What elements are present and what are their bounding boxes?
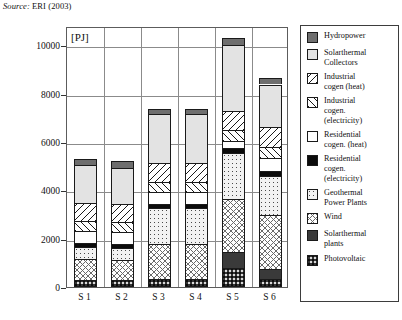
legend-label: Residential cogen. (heat)	[324, 130, 367, 149]
legend-swatch-hydro-icon	[307, 32, 318, 43]
legend-label: Geothermal Power Plants	[324, 188, 367, 207]
bar-segment-indelec	[111, 222, 134, 232]
legend-swatch-indelec-icon	[307, 97, 318, 108]
bar-segment-resheat	[148, 192, 171, 204]
source-text: ERI (2003)	[30, 1, 72, 11]
bar-segment-indelec	[259, 147, 282, 159]
gridline-8000	[67, 96, 287, 97]
bar-segment-hydro	[148, 109, 171, 114]
vertical-gridline	[215, 28, 216, 287]
legend-item-solplant[interactable]: Solarthermal plants	[307, 229, 394, 248]
chart-plot-area: [PJ]	[66, 27, 288, 288]
legend-item-resheat[interactable]: Residential cogen. (heat)	[307, 130, 394, 149]
bar-segment-indheat	[185, 163, 208, 182]
bar-segment-resheat	[74, 231, 97, 243]
legend-label: Industrial cogen (heat)	[324, 72, 365, 91]
bar-segment-indheat	[74, 203, 97, 221]
bar-segment-solcoll	[222, 45, 245, 110]
bar-segment-hydro	[259, 78, 282, 85]
legend-swatch-solplant-icon	[307, 230, 318, 241]
source-prefix: Source:	[3, 1, 30, 11]
bar-segment-indheat	[148, 163, 171, 182]
y-tick-mark	[61, 288, 66, 289]
bar-segment-geo	[74, 247, 97, 259]
bar-segment-hydro	[185, 109, 208, 114]
legend-item-pv[interactable]: Photovoltaic	[307, 254, 394, 266]
x-tick-label-s2: S 2	[103, 292, 140, 318]
legend-item-wind[interactable]: Wind	[307, 212, 394, 224]
legend-label: Wind	[324, 212, 342, 222]
bar-segment-solcoll	[185, 114, 208, 163]
x-tick-label-s3: S 3	[140, 292, 177, 318]
bar-segment-hydro	[111, 161, 134, 167]
gridline-10000	[67, 47, 287, 48]
bar-segment-geo	[259, 176, 282, 215]
legend-label: Hydropower	[324, 31, 365, 41]
legend-label: Solarthermal plants	[324, 229, 366, 248]
bar-segment-resheat	[111, 232, 134, 244]
bar-segment-resheat	[222, 141, 245, 148]
legend-swatch-resheat-icon	[307, 131, 318, 142]
bar-segment-solplant	[259, 269, 282, 279]
x-tick-label-s1: S 1	[66, 292, 103, 318]
bar-segment-pv	[148, 279, 171, 287]
bar-segment-wind	[222, 199, 245, 252]
bar-segment-pv	[111, 280, 134, 287]
bar-segment-pv	[74, 280, 97, 287]
legend-item-indelec[interactable]: Industrial cogen. (electricity)	[307, 96, 394, 125]
legend-item-hydro[interactable]: Hydropower	[307, 31, 394, 43]
bar-segment-wind	[259, 215, 282, 269]
legend-swatch-indheat-icon	[307, 73, 318, 84]
bar-s2	[111, 26, 134, 287]
bar-s6	[259, 26, 282, 287]
legend-label: Residential cogen. (electricity)	[324, 154, 362, 183]
bar-segment-resheat	[185, 192, 208, 204]
gridline-4000	[67, 192, 287, 193]
bar-segment-wind	[148, 244, 171, 279]
bar-s4	[185, 26, 208, 287]
y-tick-label: 10000	[2, 41, 60, 51]
bar-segment-reselec	[111, 244, 134, 248]
bar-s3	[148, 26, 171, 287]
source-note: Source: ERI (2003)	[3, 1, 72, 11]
bar-segment-indelec	[148, 182, 171, 192]
bar-segment-pv	[185, 279, 208, 287]
chart-legend: HydropowerSolarthermal CollectorsIndustr…	[300, 25, 399, 302]
bar-segment-geo	[222, 153, 245, 199]
bar-segment-wind	[74, 259, 97, 280]
bar-segment-hydro	[222, 38, 245, 45]
bar-s5	[222, 26, 245, 287]
bar-segment-wind	[185, 244, 208, 279]
bar-segment-indheat	[222, 111, 245, 130]
legend-item-indheat[interactable]: Industrial cogen (heat)	[307, 72, 394, 91]
legend-label: Solarthermal Collectors	[324, 48, 366, 67]
x-tick-label-s5: S 5	[214, 292, 251, 318]
legend-swatch-pv-icon	[307, 255, 318, 266]
y-tick-label: 6000	[2, 138, 60, 148]
bar-segment-indheat	[259, 127, 282, 147]
bar-segment-geo	[185, 208, 208, 244]
bar-segment-solcoll	[148, 114, 171, 163]
bar-segment-hydro	[74, 159, 97, 165]
bar-segment-wind	[111, 260, 134, 280]
bar-s1	[74, 26, 97, 287]
vertical-gridline	[141, 28, 142, 287]
y-tick-label: 2000	[2, 235, 60, 245]
y-tick-label: 4000	[2, 186, 60, 196]
bar-segment-geo	[148, 208, 171, 244]
bar-segment-reselec	[74, 243, 97, 247]
legend-label: Industrial cogen. (electricity)	[324, 96, 362, 125]
bar-segment-indelec	[74, 221, 97, 231]
bar-segment-pv	[259, 279, 282, 287]
gridline-2000	[67, 241, 287, 242]
bar-segment-solcoll	[74, 165, 97, 203]
legend-swatch-geo-icon	[307, 189, 318, 200]
legend-item-solcoll[interactable]: Solarthermal Collectors	[307, 48, 394, 67]
legend-item-geo[interactable]: Geothermal Power Plants	[307, 188, 394, 207]
vertical-gridline	[178, 28, 179, 287]
y-tick-label: 0	[2, 283, 60, 293]
legend-item-reselec[interactable]: Residential cogen. (electricity)	[307, 154, 394, 183]
bar-segment-solcoll	[259, 85, 282, 127]
bar-segment-indelec	[185, 182, 208, 192]
bar-segment-resheat	[259, 158, 282, 170]
